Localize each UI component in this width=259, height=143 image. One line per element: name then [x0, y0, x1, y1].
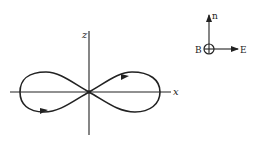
origin-dot	[87, 90, 91, 94]
n-vector-label: n	[212, 11, 218, 21]
arrow-upper-right-icon	[121, 74, 129, 80]
diagram-canvas: z x n E B	[0, 0, 259, 143]
b-into-page-icon	[204, 44, 214, 54]
b-field-label: B	[195, 45, 202, 55]
e-vector-label: E	[240, 45, 247, 55]
field-direction-inset: n E B	[195, 11, 247, 55]
x-axis-label: x	[173, 86, 179, 97]
figure-eight-trajectory	[20, 72, 160, 114]
z-axis-label: z	[81, 29, 88, 40]
arrow-lower-left-icon	[40, 108, 48, 114]
main-axes: z x	[10, 29, 179, 135]
